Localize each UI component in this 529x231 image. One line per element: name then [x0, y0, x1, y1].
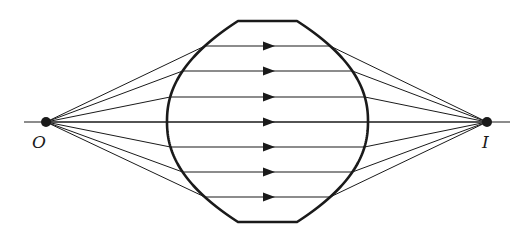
arrowhead-icon	[263, 42, 275, 51]
arrowhead-icon	[263, 143, 275, 152]
ray	[46, 42, 487, 123]
arrowhead-icon	[263, 193, 275, 202]
image-point-label: I	[482, 134, 489, 151]
object-point-label: O	[32, 134, 46, 151]
arrowhead-icon	[263, 168, 275, 177]
ray	[46, 118, 487, 127]
arrowhead-icon	[263, 93, 275, 102]
light-rays	[46, 42, 487, 202]
arrowhead-icon	[263, 118, 275, 127]
ray	[46, 122, 487, 202]
arrowhead-icon	[263, 67, 275, 76]
object-point-dot	[41, 117, 51, 127]
lens-ray-diagram	[0, 0, 529, 231]
image-point-dot	[482, 117, 492, 127]
